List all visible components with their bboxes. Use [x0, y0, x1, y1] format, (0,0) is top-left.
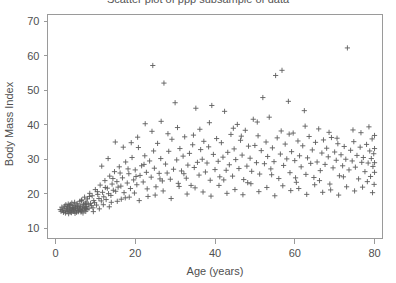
data-point-marker [251, 117, 256, 122]
data-point-marker [110, 176, 115, 181]
data-point-marker [150, 63, 155, 68]
data-point-marker [358, 145, 363, 150]
data-point-marker [268, 166, 273, 171]
data-point-marker [270, 145, 275, 150]
data-point-marker [128, 186, 133, 191]
data-point-marker [187, 151, 192, 156]
data-point-marker [159, 119, 164, 124]
data-point-marker [137, 173, 142, 178]
data-point-marker [353, 165, 358, 170]
data-point-marker [117, 164, 122, 169]
data-point-marker [182, 134, 187, 139]
data-point-marker [289, 149, 294, 154]
data-point-marker [236, 166, 241, 171]
data-point-marker [361, 155, 366, 160]
data-point-marker [184, 191, 189, 196]
data-point-marker [314, 159, 319, 164]
data-point-marker [201, 139, 206, 144]
data-point-marker [121, 190, 126, 195]
data-point-marker [114, 179, 119, 184]
data-point-marker [279, 128, 284, 133]
data-point-marker [176, 181, 181, 186]
data-point-marker [326, 154, 331, 159]
data-point-marker [272, 193, 277, 198]
data-point-marker [321, 137, 326, 142]
data-point-marker [345, 45, 350, 50]
data-point-marker [125, 180, 130, 185]
data-point-marker [149, 175, 154, 180]
data-point-marker [281, 163, 286, 168]
data-point-marker [117, 170, 122, 175]
data-point-marker [144, 170, 149, 175]
data-point-marker [241, 177, 246, 182]
data-point-marker [196, 172, 201, 177]
data-point-marker [367, 148, 372, 153]
data-point-marker [362, 169, 367, 174]
data-point-marker [348, 148, 353, 153]
y-tick-label: 60 [27, 50, 39, 62]
data-point-marker [99, 164, 104, 169]
data-point-marker [238, 138, 243, 143]
data-point-marker [107, 204, 112, 209]
data-point-marker [90, 193, 95, 198]
y-tick-label: 30 [27, 153, 39, 165]
y-axis-ticks: 10203040506070 [27, 15, 47, 234]
data-point-marker [246, 144, 251, 149]
x-axis-title: Age (years) [187, 265, 244, 277]
data-point-marker [180, 154, 185, 159]
data-point-marker [259, 148, 264, 153]
data-point-marker [142, 153, 147, 158]
data-point-marker [360, 185, 365, 190]
data-point-marker [220, 155, 225, 160]
data-point-marker [283, 141, 288, 146]
data-point-marker [366, 160, 371, 165]
data-point-marker [145, 194, 150, 199]
data-point-marker [111, 188, 116, 193]
data-point-marker [271, 159, 276, 164]
data-point-marker [100, 190, 105, 195]
data-point-marker [192, 165, 197, 170]
data-point-marker [203, 169, 208, 174]
data-point-marker [286, 99, 291, 104]
data-point-marker [195, 160, 200, 165]
data-point-marker [252, 143, 257, 148]
data-point-marker [262, 161, 267, 166]
data-point-marker [366, 124, 371, 129]
data-point-marker [153, 192, 158, 197]
data-point-marker [352, 188, 357, 193]
data-point-marker [340, 163, 345, 168]
y-tick-label: 70 [27, 15, 39, 27]
data-point-marker [235, 122, 240, 127]
data-point-marker [129, 140, 134, 145]
data-point-marker [369, 156, 374, 161]
data-point-marker [294, 180, 299, 185]
data-point-marker [334, 136, 339, 141]
data-point-marker [296, 186, 301, 191]
data-point-marker [129, 155, 134, 160]
data-point-marker [125, 166, 130, 171]
data-point-marker [161, 80, 166, 85]
data-point-marker [313, 140, 318, 145]
data-point-marker [171, 167, 176, 172]
data-point-marker [335, 141, 340, 146]
data-point-marker [305, 155, 310, 160]
y-tick-label: 20 [27, 188, 39, 200]
data-point-marker [216, 159, 221, 164]
data-point-marker [190, 142, 195, 147]
data-point-marker [269, 172, 274, 177]
data-point-marker [317, 178, 322, 183]
data-point-marker [336, 192, 341, 197]
data-point-marker [370, 190, 375, 195]
data-point-marker [310, 147, 315, 152]
data-point-marker [318, 168, 323, 173]
data-point-marker [256, 189, 261, 194]
data-point-marker [244, 164, 249, 169]
data-point-marker [239, 134, 244, 139]
data-point-marker [208, 178, 213, 183]
data-point-marker [212, 167, 217, 172]
data-point-marker [185, 162, 190, 167]
data-point-marker [96, 196, 101, 201]
data-point-marker [284, 156, 289, 161]
data-point-marker [149, 129, 154, 134]
data-point-marker [267, 115, 272, 120]
